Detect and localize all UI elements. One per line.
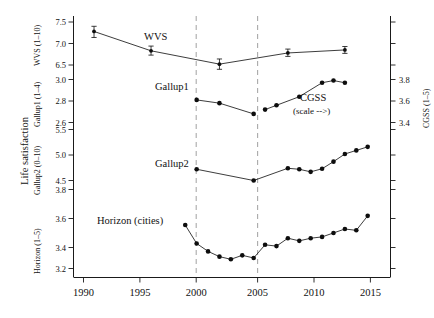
- tick-label-horizon-3-2: 3.2: [55, 264, 66, 274]
- data-point: [286, 51, 290, 55]
- tick-label-wvs-6-5: 6.5: [55, 60, 66, 70]
- xtick-label-2015: 2015: [360, 287, 381, 298]
- data-point: [343, 80, 348, 85]
- data-point: [331, 159, 336, 164]
- data-point: [217, 101, 222, 106]
- data-point: [194, 241, 199, 246]
- data-point: [263, 107, 268, 112]
- data-point: [149, 49, 153, 53]
- tick-label-gallup1-2-8: 2.8: [55, 96, 66, 106]
- data-point: [343, 152, 348, 157]
- data-point: [194, 167, 199, 172]
- data-point: [217, 254, 222, 259]
- series-label-horizon: Horizon (cities): [97, 215, 164, 227]
- data-point: [297, 239, 302, 244]
- data-point: [365, 214, 370, 219]
- data-point: [218, 62, 222, 66]
- y-axis-title: Life satisfaction: [19, 116, 30, 185]
- data-point: [320, 235, 325, 240]
- xtick-label-2005: 2005: [247, 287, 268, 298]
- axis-title-horizon: Horizon (1–5): [33, 228, 42, 274]
- data-point: [297, 167, 302, 172]
- data-point: [331, 231, 336, 236]
- series-label-wvs: WVS: [144, 31, 167, 42]
- tick-label-horizon-3-6: 3.6: [55, 214, 66, 224]
- data-point: [308, 170, 313, 175]
- xtick-label-2000: 2000: [186, 287, 207, 298]
- data-point: [263, 243, 268, 248]
- tick-label-horizon-3-4: 3.4: [55, 243, 66, 253]
- data-point: [308, 236, 313, 241]
- tick-label-horizon-3-8: 3.8: [55, 185, 66, 195]
- tick-label-cgss-3-8: 3.8: [399, 75, 410, 85]
- tick-label-wvs-7-5: 7.5: [55, 17, 66, 27]
- axis-title-cgss: CGSS (1–5): [422, 88, 431, 128]
- tick-label-cgss-3-4: 3.4: [399, 118, 410, 128]
- data-point: [274, 103, 279, 108]
- data-point: [206, 249, 211, 254]
- data-point: [240, 253, 245, 258]
- data-point: [365, 145, 370, 150]
- xtick-label-2010: 2010: [304, 287, 325, 298]
- data-point: [286, 236, 291, 241]
- data-point: [286, 166, 291, 171]
- data-point: [92, 30, 96, 34]
- data-point: [229, 257, 234, 262]
- series-label-cgss: CGSS: [300, 92, 326, 103]
- tick-label-gallup2-5-5: 5.5: [55, 125, 66, 135]
- data-point: [251, 112, 256, 117]
- tick-label-cgss-3-6: 3.6: [399, 96, 410, 106]
- data-point: [354, 228, 359, 233]
- data-point: [251, 256, 256, 261]
- data-point: [274, 244, 279, 249]
- data-point: [320, 166, 325, 171]
- tick-label-gallup1-3-0: 3.0: [55, 75, 66, 85]
- left-axis-panel-titles: WVS (1–10) Gallup1 (1–4) Gallup2 (0–10) …: [33, 25, 42, 274]
- data-point: [183, 223, 188, 228]
- xtick-label-1990: 1990: [73, 287, 94, 298]
- xtick-label-1995: 1995: [129, 287, 150, 298]
- data-point: [331, 78, 336, 83]
- data-point: [194, 98, 199, 103]
- data-point: [251, 178, 256, 183]
- data-point: [343, 227, 348, 232]
- axis-title-wvs: WVS (1–10): [33, 25, 42, 66]
- axis-title-gallup2: Gallup2 (0–10): [33, 146, 42, 195]
- data-point: [354, 148, 359, 153]
- data-point: [320, 80, 325, 85]
- tick-label-wvs-7-0: 7.0: [55, 39, 66, 49]
- data-point: [343, 48, 347, 52]
- chart-figure: 7.5 7.0 6.5 3.0 2.8 2.6 5.5 5.0 4.5: [0, 0, 434, 318]
- axis-title-gallup1: Gallup1 (1–4): [33, 82, 42, 127]
- series-label-gallup2: Gallup2: [155, 158, 189, 169]
- tick-label-gallup2-5-0: 5.0: [55, 150, 66, 160]
- series-label-cgss-scale-note: (scale -->): [293, 106, 330, 116]
- series-label-gallup1: Gallup1: [155, 81, 189, 92]
- life-satisfaction-multi-panel-chart: 7.5 7.0 6.5 3.0 2.8 2.6 5.5 5.0 4.5: [0, 0, 434, 318]
